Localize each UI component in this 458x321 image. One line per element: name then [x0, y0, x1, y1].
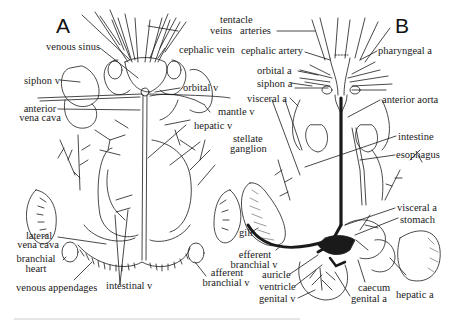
label-esophagus: esophagus — [396, 150, 440, 160]
label-pharyngeal-a: pharyngeal a — [378, 46, 432, 56]
label-branchial-heart-2: heart — [18, 264, 54, 274]
label-gill: gill — [239, 228, 253, 238]
label-visceral-a: visceral a — [397, 203, 437, 213]
label-venous-sinus: venous sinus — [46, 42, 100, 52]
label-genital-v: genital v — [259, 294, 295, 304]
label-auricle: auricle — [262, 270, 291, 280]
panel-b-letter: B — [395, 14, 409, 38]
label-ventricle: ventricle — [259, 282, 296, 292]
label-anterior-vena-cava-2: vena cava — [18, 113, 62, 123]
label-siphon-a: siphon a — [257, 79, 292, 89]
label-intestine: intestine — [398, 132, 434, 142]
label-siphon-v: siphon v — [24, 76, 60, 86]
label-arteries: arteries — [240, 26, 271, 36]
anatomy-figure: A B tentacle veins venous sinus cephalic… — [0, 0, 458, 321]
label-veins: veins — [210, 26, 232, 36]
label-tentacle: tentacle — [220, 15, 253, 25]
label-afferent-branchial-v: branchial v — [197, 278, 255, 288]
label-mantle-v: mantle v — [218, 107, 254, 117]
label-cephalic-artery: cephalic artery — [241, 46, 303, 56]
label-lateral-vena-cava-2: vena cava — [16, 240, 60, 250]
panel-a-letter: A — [56, 14, 70, 38]
label-cephalic-vein: cephalic vein — [179, 45, 235, 55]
label-visceral-a-top: visceral a — [247, 94, 287, 104]
label-stomach: stomach — [400, 215, 435, 225]
label-orbital-a: orbital a — [257, 66, 292, 76]
label-hepatic-a: hepatic a — [396, 290, 434, 300]
label-caecum: caecum — [358, 283, 390, 293]
label-venous-appendages: venous appendages — [16, 283, 97, 293]
label-hepatic-v: hepatic v — [194, 121, 232, 131]
label-orbital-v: orbital v — [183, 83, 218, 93]
label-intestinal-v: intestinal v — [106, 281, 152, 291]
label-ganglion: ganglion — [230, 144, 267, 154]
label-genital-a: genital a — [351, 294, 387, 304]
label-anterior-aorta: anterior aorta — [382, 95, 438, 105]
